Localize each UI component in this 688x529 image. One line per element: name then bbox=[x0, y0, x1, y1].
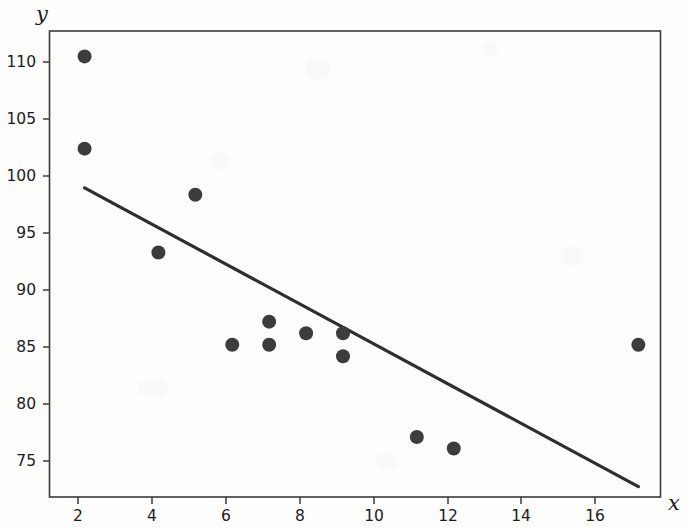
data-point bbox=[410, 430, 424, 444]
data-point bbox=[336, 326, 350, 340]
data-point bbox=[299, 326, 313, 340]
x-tick-label: 10 bbox=[364, 507, 384, 525]
y-tick-label: 110 bbox=[6, 53, 36, 71]
data-point bbox=[151, 245, 165, 259]
y-tick-label: 100 bbox=[6, 167, 36, 185]
data-point bbox=[447, 442, 461, 456]
data-point bbox=[225, 338, 239, 352]
plot-canvas: 2 4 6 8 10 12 14 16 x 75 80 85 bbox=[0, 0, 688, 529]
x-tick-label: 14 bbox=[511, 507, 531, 525]
x-tick-label: 6 bbox=[221, 507, 231, 525]
x-tick-label: 4 bbox=[147, 507, 157, 525]
data-point bbox=[78, 49, 92, 63]
x-tick-label: 16 bbox=[585, 507, 605, 525]
x-axis: 2 4 6 8 10 12 14 16 x bbox=[73, 491, 680, 525]
scatter-plot-figure: 2 4 6 8 10 12 14 16 x 75 80 85 bbox=[0, 0, 688, 529]
data-point bbox=[262, 338, 276, 352]
y-tick-label: 85 bbox=[16, 338, 36, 356]
y-tick-label: 75 bbox=[16, 452, 36, 470]
x-tick-label: 12 bbox=[438, 507, 458, 525]
trend-line bbox=[85, 188, 639, 487]
data-point bbox=[78, 142, 92, 156]
data-points-layer bbox=[78, 49, 646, 455]
trend-line-layer bbox=[85, 188, 639, 487]
y-tick-label: 95 bbox=[16, 224, 36, 242]
y-axis: 75 80 85 90 95 100 105 110 y bbox=[6, 2, 50, 470]
x-tick-label: 8 bbox=[295, 507, 305, 525]
data-point bbox=[631, 338, 645, 352]
y-tick-label: 80 bbox=[16, 395, 36, 413]
x-tick-label: 2 bbox=[73, 507, 83, 525]
y-axis-label: y bbox=[35, 2, 49, 26]
x-tick-group bbox=[78, 497, 595, 504]
y-tick-label: 105 bbox=[6, 110, 36, 128]
x-axis-label: x bbox=[668, 491, 680, 515]
y-tick-label: 90 bbox=[16, 281, 36, 299]
data-point bbox=[188, 188, 202, 202]
plot-frame bbox=[50, 31, 661, 497]
data-point bbox=[262, 315, 276, 329]
data-point bbox=[336, 349, 350, 363]
